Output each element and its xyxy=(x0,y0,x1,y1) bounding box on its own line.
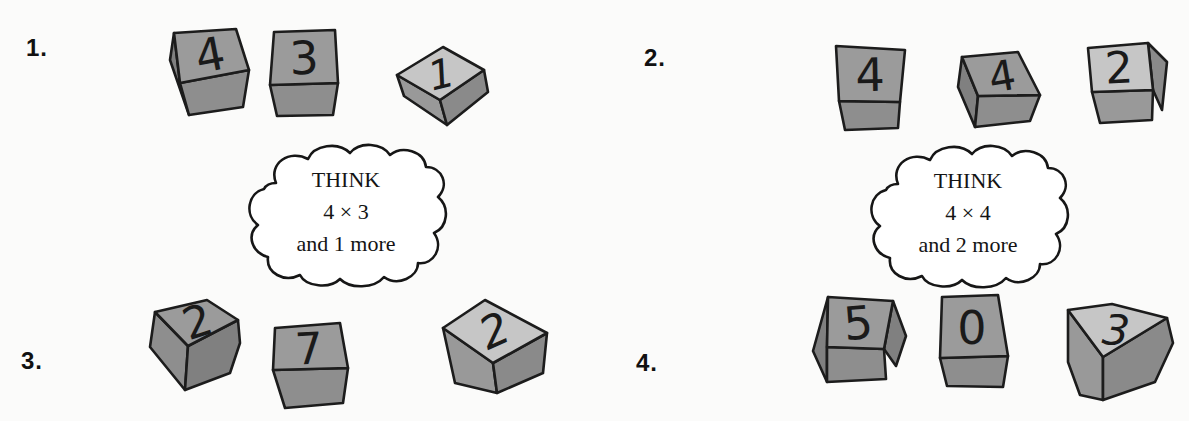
think-line-2: 4 × 3 xyxy=(323,199,368,224)
block-digit: 7 xyxy=(294,322,325,374)
problem-4-number: 4. xyxy=(636,349,658,377)
problem-4-block-3: 3 xyxy=(1066,298,1178,402)
block-digit: 2 xyxy=(1104,41,1135,93)
think-line-3: and 2 more xyxy=(919,232,1018,257)
block-digit: 5 xyxy=(841,295,875,351)
problem-3-block-3: 2 xyxy=(438,296,550,396)
block-front-face xyxy=(940,356,1008,387)
block-digit: 3 xyxy=(288,31,319,86)
think-line-2: 4 × 4 xyxy=(945,200,990,225)
problem-2-block-1: 4 xyxy=(831,44,909,134)
problem-2-block-3: 2 xyxy=(1086,42,1170,130)
block-front-face xyxy=(273,368,348,408)
problem-4-block-1: 5 xyxy=(810,294,908,386)
problem-3-block-2: 7 xyxy=(271,321,351,411)
block-front-face xyxy=(827,347,886,382)
problem-2-think-cloud: THINK 4 × 4 and 2 more xyxy=(862,140,1074,292)
worksheet-page: 1. 2. 3. 4. 4 3 1 THINK 4 × 3 and 1 more… xyxy=(0,0,1189,421)
block-front-face xyxy=(270,83,338,116)
problem-1-think-cloud: THINK 4 × 3 and 1 more xyxy=(240,139,452,291)
block-digit: 4 xyxy=(855,48,885,103)
problem-3-block-1: 2 xyxy=(148,296,242,392)
problem-1-block-1: 4 xyxy=(170,28,254,120)
problem-1-block-2: 3 xyxy=(267,28,343,118)
problem-1-block-3: 1 xyxy=(388,45,490,125)
problem-3-number: 3. xyxy=(21,347,43,375)
problem-2-number: 2. xyxy=(644,44,666,72)
think-line-1: THINK xyxy=(312,167,381,192)
block-digit: 0 xyxy=(957,301,986,355)
think-line-3: and 1 more xyxy=(297,231,396,256)
problem-2-block-2: 4 xyxy=(957,51,1043,133)
block-front-face xyxy=(1092,90,1153,123)
problem-4-block-2: 0 xyxy=(938,294,1010,390)
block-front-face xyxy=(839,101,900,130)
think-line-1: THINK xyxy=(934,168,1003,193)
problem-1-number: 1. xyxy=(26,34,48,62)
block-digit: 3 xyxy=(1100,305,1132,357)
